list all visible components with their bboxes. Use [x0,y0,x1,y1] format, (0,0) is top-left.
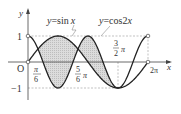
y-tick-1: 1 [17,31,22,42]
point-2pi-0 [146,60,150,64]
label-cos2x: y=cos2x [98,15,132,26]
svg-text:3: 3 [114,39,118,48]
svg-text:6: 6 [34,75,38,84]
tick-label-3pi-over-2: 3 2 π [113,39,126,58]
svg-text:π: π [83,71,88,80]
point-2pi-1 [146,34,150,38]
svg-text:2: 2 [114,49,118,58]
tick-label-pi-over-6: π 6 [33,65,41,84]
leader-sin [72,25,76,36]
svg-text:5: 5 [76,65,80,74]
function-graph: y=sinx y=cos2x y x O 1 −1 π 6 5 6 π 3 2 … [0,0,181,114]
leader-cos2x [101,26,110,36]
y-axis-arrow-icon [26,8,30,14]
svg-text:6: 6 [76,75,80,84]
label-sin: y=sinx [46,15,76,26]
tick-label-2pi: 2π [150,66,158,75]
point-origin [26,60,30,64]
tick-label-5pi-over-6: 5 6 π [75,65,88,84]
y-tick-neg1: −1 [11,83,22,94]
x-axis-label: x [166,62,171,72]
svg-text:π: π [121,45,126,54]
origin-label: O [17,63,24,74]
y-axis-label: y [18,8,23,18]
svg-text:π: π [34,65,39,74]
point-0-1 [26,34,30,38]
